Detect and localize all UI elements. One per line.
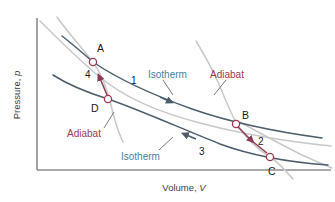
state-point-label-A: A [97,42,104,54]
leader-line-adiabat-left [104,112,114,128]
y-axis-label: Pressure, p [11,71,22,120]
curve-type-labels-group: Isotherm Isotherm Adiabat Adiabat [67,69,244,162]
state-point-B[interactable] [232,120,239,127]
isotherm-hot-direction-arrow [160,97,171,102]
curve-label-isotherm-lower: Isotherm [121,151,160,162]
curve-label-adiabat-right: Adiabat [210,69,244,80]
leader-line-isotherm-lower [159,137,173,150]
process-label-4: 4 [85,69,91,80]
y-axis-label-symbol: p [11,71,22,77]
state-point-label-D: D [91,102,99,114]
state-point-C[interactable] [266,153,273,160]
curve-label-isotherm-upper: Isotherm [148,69,187,80]
leader-line-adiabat-right [214,80,226,95]
leader-line-isotherm-upper [163,80,173,95]
y-axis-label-text: Pressure, [11,76,22,119]
x-axis-label: Volume, V [162,182,207,193]
process-label-3: 3 [199,146,205,157]
state-point-label-B: B [242,109,249,121]
process-number-labels-group: 1 2 3 4 [85,69,264,157]
process-label-2: 2 [258,136,264,147]
state-point-labels-group: A B C D [91,42,276,177]
isotherm-cold-direction-arrow [184,134,196,139]
axis-titles-group: Volume, V Pressure, p [11,71,207,193]
carnot-cycle-figure: A B C D 1 2 3 4 Isotherm Isotherm Adiaba… [0,0,335,202]
x-axis-label-symbol: V [199,182,207,193]
isotherm-curves-group [53,36,328,165]
x-axis-label-text: Volume, [162,182,199,193]
process-label-1: 1 [131,75,137,86]
state-point-A[interactable] [89,58,96,65]
adiabat-curves-group [40,17,332,179]
curve-label-adiabat-left: Adiabat [67,128,101,139]
state-point-D[interactable] [104,95,111,102]
state-point-label-C: C [268,165,276,177]
